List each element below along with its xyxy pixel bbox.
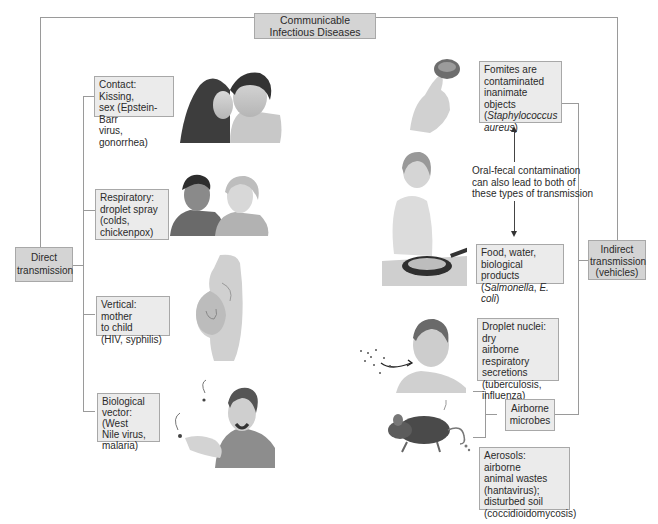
fomites-organism-genus: Staphylococcus — [487, 110, 557, 121]
direct-branch-vertical — [83, 314, 95, 315]
fomites-line-3: inanimate objects — [484, 87, 557, 110]
vector-line-1: Biological — [102, 396, 155, 407]
fomites-organism-species: aureus — [484, 122, 515, 133]
respiratory-line-4: chickenpox) — [100, 227, 164, 239]
aerosols-line-2: animal wastes — [484, 473, 565, 485]
respiratory-line-2: droplet spray — [100, 204, 164, 216]
droplet-line-4: (tuberculosis, — [482, 379, 554, 391]
oral-fecal-line-1: Oral-fecal contamination — [472, 165, 593, 177]
aerosols-line-5: (coccidioidomycosis) — [484, 508, 565, 520]
indirect-spine — [578, 103, 579, 415]
direct-transmission-box: Direct transmission — [15, 247, 73, 282]
fomites-box: Fomites are contaminated inanimate objec… — [479, 61, 562, 123]
aerosols-line-1: Aerosols: airborne — [484, 450, 565, 473]
contact-line-3: virus, gonorrhea) — [99, 125, 169, 148]
vector-line-3: Nile virus, — [102, 429, 155, 440]
food-box: Food, water, biological products (Salmon… — [476, 244, 564, 284]
connector-top-left — [40, 17, 255, 18]
indirect-label-line-1: Indirect — [590, 244, 644, 256]
oral-fecal-line-3: these types of transmission — [472, 188, 593, 200]
direct-label-line-2: transmission — [17, 265, 71, 278]
food-line-2: biological products — [481, 259, 559, 282]
woman-cooking-illustration — [372, 146, 467, 286]
connector-top-right — [375, 17, 618, 18]
indirect-label-line-3: (vehicles) — [590, 267, 644, 279]
fomites-line-2: contaminated — [484, 76, 557, 88]
vertical-box: Vertical: mother to child (HIV, syphilis… — [96, 296, 170, 336]
hand-holding-object-illustration — [405, 55, 465, 135]
pregnant-woman-illustration — [192, 253, 262, 363]
respiratory-box: Respiratory: droplet spray (colds, chick… — [95, 189, 169, 240]
indirect-branch-fomites — [560, 103, 579, 104]
oral-fecal-line-2: can also lead to both of — [472, 177, 593, 189]
vertical-line-3: (HIV, syphilis) — [101, 334, 165, 346]
droplet-nuclei-box: Droplet nuclei: dry airborne respiratory… — [477, 318, 559, 381]
vector-box: Biological vector: (West Nile virus, mal… — [97, 393, 160, 442]
airborne-bracket-stub — [485, 414, 497, 415]
vertical-line-2: to child — [101, 322, 165, 334]
respiratory-line-1: Respiratory: — [100, 192, 164, 204]
direct-label-line-1: Direct — [17, 252, 71, 265]
airborne-line-1: Airborne — [508, 403, 552, 415]
oral-fecal-note: Oral-fecal contamination can also lead t… — [472, 165, 593, 200]
fomites-line-5: aureus) — [484, 122, 557, 134]
vertical-line-1: Vertical: mother — [101, 299, 165, 322]
man-swatting-mosquitoes-illustration — [170, 378, 275, 468]
airborne-bracket-bottom — [473, 437, 485, 438]
airborne-line-2: microbes — [508, 415, 552, 427]
food-organism-1: Salmonella — [484, 282, 533, 293]
aerosols-box: Aerosols: airborne animal wastes (hantav… — [479, 447, 570, 510]
title-line-2: Infectious Diseases — [257, 27, 373, 39]
contact-line-1: Contact: Kissing, — [99, 79, 169, 102]
title-line-1: Communicable — [257, 15, 373, 27]
fomites-line-4: (Staphylococcus — [484, 110, 557, 122]
airborne-microbes-box: Airborne microbes — [505, 399, 555, 431]
connector-left-vertical — [40, 17, 41, 249]
vector-line-4: malaria) — [102, 440, 155, 451]
two-people-kissing-illustration — [175, 65, 285, 145]
indirect-label-line-2: transmission — [590, 256, 644, 268]
title-box: Communicable Infectious Diseases — [254, 13, 376, 39]
droplet-line-1: Droplet nuclei: dry — [482, 321, 554, 344]
food-line-1: Food, water, — [481, 247, 559, 259]
direct-stub — [72, 265, 84, 266]
direct-branch-respiratory — [83, 210, 95, 211]
indirect-branch-airborne — [555, 414, 579, 415]
direct-spine — [83, 96, 84, 412]
indirect-transmission-box: Indirect transmission (vehicles) — [588, 240, 646, 280]
man-coughing-illustration — [356, 313, 466, 393]
direct-branch-vector — [83, 411, 95, 412]
arrow-down-icon — [511, 231, 517, 237]
vector-line-2: vector: (West — [102, 407, 155, 429]
mouse-illustration — [382, 400, 472, 455]
fomites-line-1: Fomites are — [484, 64, 557, 76]
contact-box: Contact: Kissing, sex (Epstein-Barr viru… — [94, 76, 174, 117]
contact-line-2: sex (Epstein-Barr — [99, 102, 169, 125]
droplet-line-2: airborne respiratory — [482, 344, 554, 367]
connector-right-vertical — [617, 17, 618, 240]
aerosols-line-3: (hantavirus); — [484, 485, 565, 497]
droplet-line-3: secretions — [482, 367, 554, 379]
aerosols-line-4: disturbed soil — [484, 496, 565, 508]
food-line-3: (Salmonella, E. coli) — [481, 282, 559, 305]
oral-fecal-arrow-up-line — [514, 132, 515, 162]
two-women-talking-illustration — [170, 170, 270, 236]
oral-fecal-arrow-down-line — [514, 201, 515, 231]
respiratory-line-3: (colds, — [100, 215, 164, 227]
